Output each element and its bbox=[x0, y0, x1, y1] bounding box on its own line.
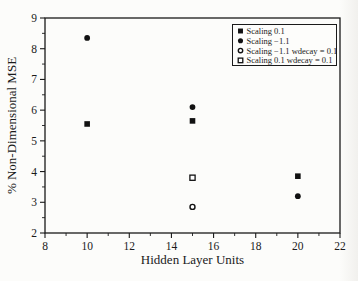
x-tick-label: 10 bbox=[81, 240, 93, 252]
marker-open-square bbox=[190, 175, 195, 180]
x-tick-label: 18 bbox=[250, 240, 262, 252]
y-tick-label: 9 bbox=[31, 12, 37, 24]
marker-filled-square bbox=[84, 121, 90, 127]
legend: Scaling 0.1Scaling −1.1Scaling −1.1 wdec… bbox=[233, 25, 338, 66]
y-tick-label: 5 bbox=[31, 135, 37, 147]
y-tick-label: 8 bbox=[31, 43, 37, 55]
marker-filled-square bbox=[190, 118, 196, 124]
legend-item-label: Scaling 0.1 wdecay = 0.1 bbox=[247, 55, 333, 65]
legend-item-label: Scaling −1.1 bbox=[247, 36, 290, 46]
marker-open-circle bbox=[238, 48, 242, 52]
marker-open-square bbox=[238, 58, 243, 63]
y-tick-label: 4 bbox=[31, 166, 37, 178]
legend-item-label: Scaling −1.1 wdecay = 0.1 bbox=[247, 46, 338, 56]
legend-item-label: Scaling 0.1 bbox=[247, 26, 285, 36]
marker-filled-circle bbox=[238, 38, 243, 43]
marker-filled-circle bbox=[295, 193, 301, 199]
x-tick-label: 8 bbox=[42, 240, 48, 252]
marker-filled-circle bbox=[84, 35, 90, 41]
x-tick-label: 12 bbox=[124, 240, 136, 252]
marker-filled-square bbox=[238, 29, 243, 34]
chart-canvas: 81012141618202223456789 Scaling 0.1Scali… bbox=[0, 0, 358, 281]
x-tick-label: 16 bbox=[208, 240, 220, 252]
y-axis-title: % Non-Dimensional MSE bbox=[4, 57, 19, 194]
x-tick-label: 14 bbox=[166, 240, 178, 252]
x-axis-title: Hidden Layer Units bbox=[141, 252, 244, 267]
y-tick-label: 2 bbox=[31, 227, 37, 239]
x-tick-label: 22 bbox=[334, 240, 346, 252]
y-tick-label: 6 bbox=[31, 104, 37, 116]
marker-filled-square bbox=[295, 173, 301, 179]
y-tick-label: 7 bbox=[31, 73, 37, 85]
marker-open-circle bbox=[190, 204, 195, 209]
marker-filled-circle bbox=[190, 104, 196, 110]
x-tick-label: 20 bbox=[292, 240, 304, 252]
figure-scatter-plot: 81012141618202223456789 Scaling 0.1Scali… bbox=[0, 0, 358, 281]
y-tick-label: 3 bbox=[31, 196, 37, 208]
